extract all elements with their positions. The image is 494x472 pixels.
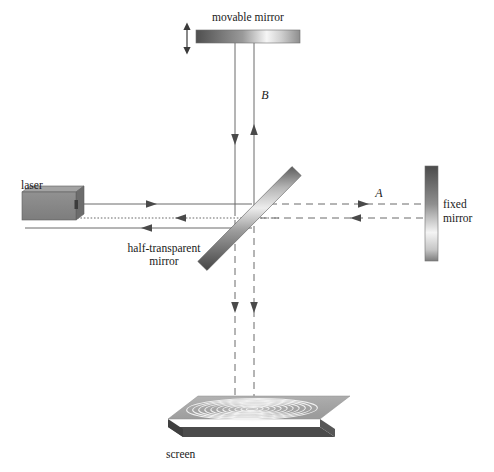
beam-a-returning	[260, 214, 426, 222]
beam-returning-solid	[25, 224, 252, 232]
beam-to-screen-left	[231, 220, 239, 413]
beam-laser-to-splitter	[77, 200, 252, 208]
beam-a-outgoing	[270, 200, 426, 208]
fixed-mirror[interactable]	[425, 166, 438, 261]
movable-mirror-adjust-arrow[interactable]	[183, 23, 190, 55]
beam-b-downward	[231, 43, 239, 216]
fixed-mirror-label-line1: fixed	[443, 198, 467, 210]
half-transparent-mirror-label-line2: mirror	[149, 255, 179, 267]
movable-mirror-label: movable mirror	[212, 11, 284, 23]
fixed-mirror-label-line2: mirror	[443, 212, 473, 224]
half-transparent-mirror-label-line1: half-transparent	[128, 242, 202, 255]
beam-b-label: B	[261, 88, 269, 102]
beam-a-label: A	[374, 186, 383, 200]
beam-paths	[25, 43, 426, 413]
screen-label: screen	[166, 448, 196, 460]
beam-b-upward	[250, 43, 258, 222]
beam-to-screen-right	[250, 226, 258, 413]
laser-label: laser	[21, 179, 43, 191]
laser-source[interactable]	[22, 186, 84, 220]
interferometer-diagram-canvas: movable mirror laser half-transparent mi…	[0, 0, 494, 472]
movable-mirror[interactable]	[196, 30, 300, 43]
screen[interactable]	[168, 396, 350, 437]
interferometer-figure: movable mirror laser half-transparent mi…	[0, 0, 494, 472]
